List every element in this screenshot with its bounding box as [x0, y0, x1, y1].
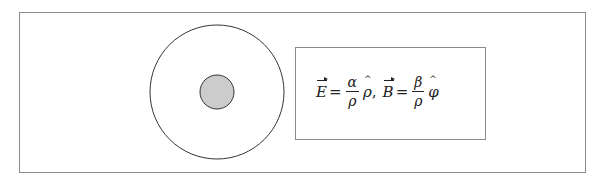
equals-sign: =: [396, 83, 409, 101]
formula-box: E = α ρ ρ , B = β ρ φ: [295, 47, 486, 140]
rho-unit-vector: ρ: [363, 83, 372, 101]
phi-unit-vector: φ: [428, 83, 439, 101]
b-numerator: β: [412, 74, 424, 92]
b-fraction: β ρ: [412, 74, 424, 109]
comma: ,: [372, 83, 377, 101]
e-numerator: α: [346, 74, 359, 92]
field-equations: E = α ρ ρ , B = β ρ φ: [316, 74, 439, 109]
b-field-symbol: B: [383, 83, 394, 101]
b-denominator: ρ: [414, 92, 422, 109]
e-field-symbol: E: [316, 83, 327, 101]
equals-sign: =: [329, 83, 342, 101]
e-fraction: α ρ: [346, 74, 359, 109]
inner-conductor-circle: [200, 75, 234, 109]
e-denominator: ρ: [348, 92, 356, 109]
